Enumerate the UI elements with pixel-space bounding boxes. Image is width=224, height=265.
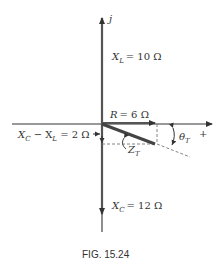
net-reactance-label: XC − XL = 2 Ω (17, 129, 90, 143)
figure-caption: FIG. 15.24 (82, 249, 130, 260)
r-label: R= 6 Ω (109, 109, 149, 120)
zt-pointer (122, 138, 126, 149)
impedance-diagram: j + XL= 10 Ω R= 6 Ω XC − XL = 2 Ω ZT θT … (0, 0, 224, 265)
dashed-extension (157, 144, 190, 157)
xc-label: XC= 12 Ω (111, 200, 162, 214)
imaginary-axis-label: j (107, 13, 112, 24)
xl-label: XL= 10 Ω (111, 51, 162, 65)
real-axis-label: + (199, 128, 207, 139)
zt-phasor (102, 124, 155, 144)
theta-label: θT (179, 131, 191, 145)
zt-label: ZT (127, 144, 141, 158)
theta-arc (172, 128, 174, 145)
